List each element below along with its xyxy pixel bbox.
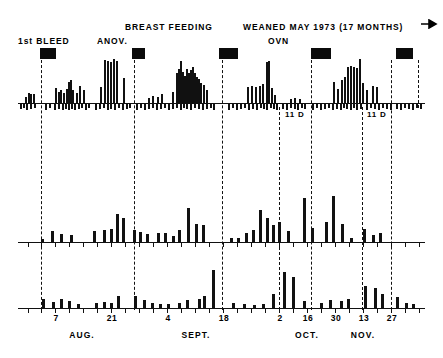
panel-steroid-bars-axis-tick xyxy=(55,243,56,247)
panel1-down-tick xyxy=(350,104,352,110)
panel1-down-tick xyxy=(400,104,402,110)
panel-steroid-bars-axis-tick xyxy=(279,243,280,247)
panel1-spike xyxy=(157,97,159,103)
panel1-spike xyxy=(274,95,276,103)
panel-behaviour-bars-bar xyxy=(320,303,323,308)
panel-behaviour-bars-bar xyxy=(381,294,384,308)
panel1-down-tick xyxy=(248,104,250,110)
x-axis-month-label-2: OCT. xyxy=(289,330,325,340)
panel1-down-tick xyxy=(382,104,384,108)
panel-behaviour-bars-bar xyxy=(412,304,415,308)
panel1-spike xyxy=(107,61,109,103)
figure-root: 1st BLEEDANOV.BREAST FEEDINGWEANED MAY 1… xyxy=(0,0,443,358)
panel1-down-tick xyxy=(370,104,372,108)
panel1-spike xyxy=(83,90,85,103)
panel-steroid-bars-axis-tick xyxy=(307,243,308,247)
panel-behaviour-bars-bar xyxy=(110,303,113,308)
panel1-spike xyxy=(372,86,374,103)
panel1-down-tick xyxy=(54,104,56,110)
panel1-spike xyxy=(299,99,301,103)
panel1-spike xyxy=(347,67,349,103)
panel1-down-tick xyxy=(168,104,170,110)
panel-behaviour-bars-axis-tick xyxy=(209,309,210,313)
panel-behaviour-bars-bar xyxy=(283,272,286,308)
panel1-spike xyxy=(255,87,257,103)
panel1-down-tick xyxy=(65,104,67,109)
panel1-spike xyxy=(116,61,118,103)
panel1-down-tick xyxy=(316,104,318,108)
panel-behaviour-bars-bar xyxy=(364,286,367,308)
panel-steroid-bars-axis-tick xyxy=(405,243,406,247)
panel-behaviour-bars-axis-tick xyxy=(69,309,70,313)
panel1-down-tick xyxy=(420,104,422,109)
panel1-spike xyxy=(172,92,174,103)
panel-steroid-bars-axis-tick xyxy=(97,243,98,247)
panel1-down-tick xyxy=(110,104,112,109)
panel1-down-tick xyxy=(26,104,28,110)
panel1-spike xyxy=(359,59,361,103)
panel-steroid-bars-bar xyxy=(157,233,160,242)
panel-behaviour-bars-bar xyxy=(68,301,71,308)
panel-steroid-bars-axis-tick xyxy=(41,243,42,247)
cycle-divider-3 xyxy=(279,107,280,310)
panel-steroid-bars-bar xyxy=(372,235,375,242)
panel1-spike xyxy=(72,90,74,103)
panel1-down-tick xyxy=(122,104,124,110)
panel1-down-tick xyxy=(30,104,32,109)
panel1-down-tick xyxy=(353,104,355,108)
panel1-down-tick xyxy=(88,104,90,108)
panel-steroid-bars-bar xyxy=(245,233,248,242)
panel-steroid-bars-axis-tick xyxy=(321,243,322,247)
panel1-spike xyxy=(268,61,270,103)
panel1-down-tick xyxy=(107,104,109,110)
panel-steroid-bars-bar xyxy=(172,236,175,242)
panel1-spike xyxy=(341,80,343,103)
panel1-down-tick xyxy=(210,104,212,108)
panel1-down-tick xyxy=(408,104,410,109)
panel-steroid-bars-axis-tick xyxy=(111,243,112,247)
panel-behaviour-bars-bar xyxy=(198,299,201,308)
panel-behaviour-bars-axis-tick xyxy=(419,309,420,313)
panel-behaviour-bars-axis-tick xyxy=(139,309,140,313)
cycle-divider-2 xyxy=(222,60,223,310)
x-axis-month-label-1: SEPT. xyxy=(178,330,214,340)
panel-steroid-bars-axis-tick xyxy=(335,243,336,247)
panel1-spike xyxy=(247,87,249,103)
panel-behaviour-bars-axis-tick xyxy=(153,309,154,313)
x-axis-day-label-0: 7 xyxy=(49,313,63,323)
panel-behaviour-bars-bar xyxy=(329,300,332,308)
panel1-spike xyxy=(55,88,57,103)
panel1-down-tick xyxy=(164,104,166,108)
panel-steroid-bars-bar xyxy=(230,238,233,242)
panel1-spike xyxy=(353,67,355,103)
panel-steroid-bars-bar xyxy=(350,238,353,242)
panel1-down-tick xyxy=(118,104,120,108)
panel-behaviour-bars-axis-tick xyxy=(405,309,406,313)
panel-behaviour-bars-bar xyxy=(405,303,408,308)
panel1-down-tick xyxy=(183,104,185,108)
panel1-down-tick xyxy=(360,104,362,109)
panel-steroid-bars-axis-tick xyxy=(349,243,350,247)
panel1-down-tick xyxy=(78,104,80,109)
panel-behaviour-bars-axis-tick xyxy=(195,309,196,313)
panel1-spike xyxy=(63,93,65,103)
panel1-spike xyxy=(25,97,27,103)
panel-steroid-bars-axis-tick xyxy=(153,243,154,247)
panel1-down-tick xyxy=(62,104,64,110)
panel-steroid-bars-bar xyxy=(287,231,290,242)
panel-steroid-bars-axis-tick xyxy=(377,243,378,247)
panel-behaviour-bars-bar xyxy=(42,299,45,308)
panel-steroid-bars-bar xyxy=(311,228,314,242)
panel-steroid-bars-bar xyxy=(178,230,181,242)
panel1-down-tick xyxy=(126,104,128,109)
panel1-down-tick xyxy=(202,104,204,110)
panel1-spike xyxy=(200,83,202,103)
panel-steroid-bars-axis-tick xyxy=(251,243,252,247)
panel-steroid-bars-axis-tick xyxy=(237,243,238,247)
panel1-down-tick xyxy=(340,104,342,110)
panel-steroid-bars-bar xyxy=(237,238,240,242)
panel-behaviour-bars-bar xyxy=(134,296,137,308)
panel-steroid-bars-bar xyxy=(278,222,281,242)
panel1-down-tick xyxy=(374,104,376,109)
panel1-down-tick xyxy=(176,104,178,108)
